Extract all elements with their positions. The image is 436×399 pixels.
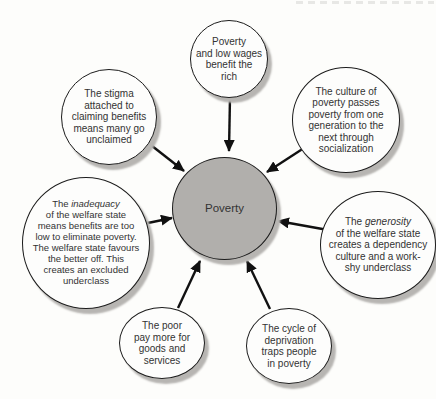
node-text: The generosity of the welfare state crea… — [327, 214, 429, 276]
node-cycle-of-deprivation: The cycle of deprivation traps people in… — [246, 308, 332, 384]
arrow-bottomright-to-center — [247, 261, 270, 309]
node-text: The cycle of deprivation traps people in… — [259, 321, 318, 371]
node-text: The stigma attached to claiming benefits… — [70, 86, 148, 148]
arrow-left-to-center — [143, 218, 172, 224]
italic-word: inadequacy — [71, 198, 120, 209]
arrow-right-to-center — [278, 221, 328, 230]
node-text: The inadequacy of the welfare state mean… — [31, 197, 142, 288]
node-welfare-generosity: The generosity of the welfare state crea… — [320, 191, 436, 299]
arrow-bottomleft-to-center — [178, 261, 200, 308]
node-culture-of-poverty: The culture of poverty passes poverty fr… — [292, 67, 400, 173]
arrow-topleft-to-center — [147, 142, 184, 171]
node-text: The poor pay more for goods and services — [132, 318, 192, 368]
node-text: The culture of poverty passes poverty fr… — [306, 84, 385, 157]
center-node-poverty: Poverty — [172, 157, 277, 260]
arrow-topright-to-center — [267, 148, 304, 172]
node-text: Poverty and low wages benefit the rich — [194, 34, 264, 84]
center-label: Poverty — [203, 200, 246, 217]
cropped-page-text-artifact — [296, 1, 434, 4]
node-poor-pay-more: The poor pay more for goods and services — [119, 307, 205, 379]
node-poverty-wages: Poverty and low wages benefit the rich — [190, 20, 268, 98]
node-stigma: The stigma attached to claiming benefits… — [61, 69, 157, 165]
node-welfare-inadequacy: The inadequacy of the welfare state mean… — [22, 177, 150, 309]
diagram-canvas: Poverty and low wages benefit the rich T… — [0, 0, 436, 399]
italic-word: generosity — [365, 216, 411, 227]
arrow-top-to-center — [229, 97, 230, 151]
